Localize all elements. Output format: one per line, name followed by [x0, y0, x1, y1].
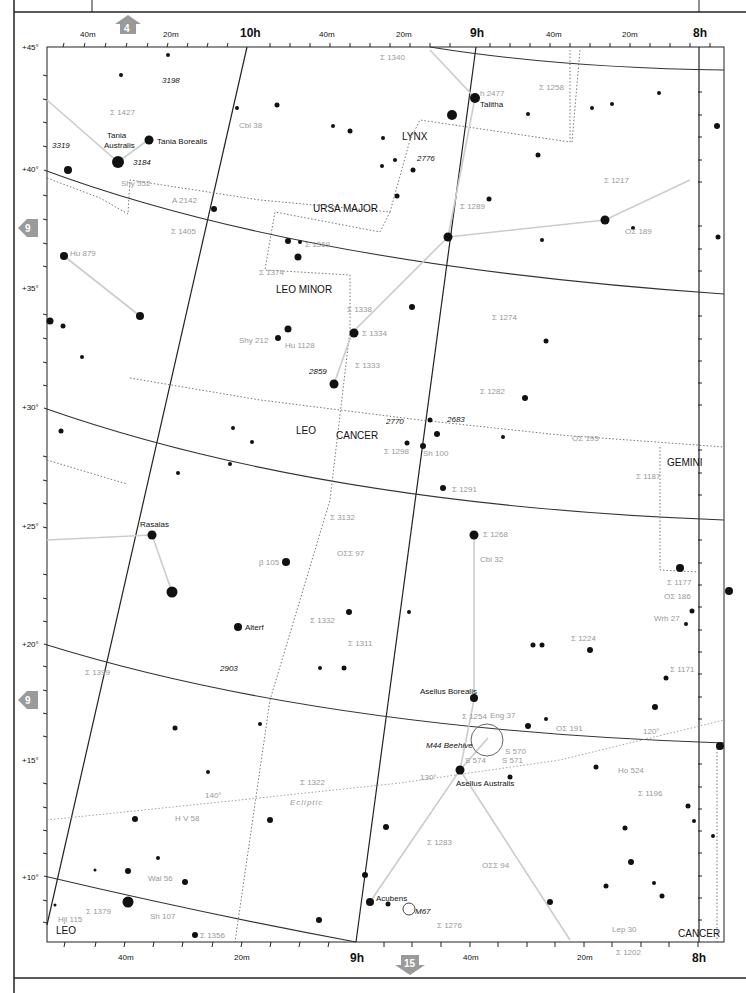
ra-bottom-40m: 40m	[118, 953, 134, 962]
svg-text:OΣΣ 97: OΣΣ 97	[337, 549, 365, 558]
nav-arrow-up[interactable]: 4	[115, 15, 141, 34]
svg-text:Σ 1289: Σ 1289	[460, 202, 486, 211]
label-tania-borealis: Tania Borealis	[157, 137, 207, 146]
dec-arc-40-35	[44, 170, 724, 294]
ra-top-9h: 9h	[470, 26, 484, 40]
svg-text:Σ 1399: Σ 1399	[85, 668, 111, 677]
svg-text:OΣ 189: OΣ 189	[625, 227, 652, 236]
label-ngc-2859: 2859	[308, 367, 327, 376]
ra-top-40m-c: 40m	[546, 30, 562, 39]
dec-label-30: +30°	[22, 403, 39, 412]
svg-text:Sh 107: Sh 107	[150, 912, 176, 921]
svg-text:Σ 1311: Σ 1311	[348, 639, 373, 648]
bottom-ticks	[64, 942, 698, 947]
svg-text:Σ 1177: Σ 1177	[667, 578, 692, 587]
label-talitha: Talitha	[480, 100, 504, 109]
svg-text:Σ 1340: Σ 1340	[380, 53, 406, 62]
svg-text:Σ 1405: Σ 1405	[171, 227, 197, 236]
svg-text:β 105: β 105	[259, 558, 280, 567]
ecliptic-mark-120: 120°	[643, 727, 660, 736]
label-tania-australis-2: Australis	[104, 141, 135, 150]
dec-label-10: +10°	[22, 873, 39, 882]
svg-text:9: 9	[25, 223, 31, 234]
constellation-cancer: CANCER	[336, 430, 378, 441]
svg-text:Cbl 38: Cbl 38	[239, 121, 263, 130]
ra-top-20m: 20m	[163, 30, 179, 39]
svg-text:OΣ 186: OΣ 186	[664, 592, 691, 601]
label-ngc-2770: 2770	[385, 417, 404, 426]
svg-text:Σ 1356: Σ 1356	[200, 931, 226, 940]
dec-label-45: +45°	[22, 43, 39, 52]
svg-text:Σ 1187: Σ 1187	[636, 472, 661, 481]
svg-text:Σ 1334: Σ 1334	[362, 329, 388, 338]
label-asellus-australis: Asellus Australis	[456, 779, 514, 788]
svg-text:Σ 1196: Σ 1196	[638, 789, 663, 798]
constellation-lynx: LYNX	[402, 131, 428, 142]
svg-text:Σ 1333: Σ 1333	[355, 361, 381, 370]
svg-text:Σ 1254: Σ 1254	[462, 712, 488, 721]
ra-bottom-9h: 9h	[350, 951, 364, 965]
svg-text:Σ 1282: Σ 1282	[480, 387, 506, 396]
svg-text:Σ 1202: Σ 1202	[616, 948, 642, 957]
ra-top-10h: 10h	[240, 26, 261, 40]
svg-text:Σ 1274: Σ 1274	[492, 313, 518, 322]
dec-arc-30-25	[44, 408, 724, 520]
svg-text:Σ 1338: Σ 1338	[347, 305, 373, 314]
svg-text:Σ 1217: Σ 1217	[604, 176, 630, 185]
svg-text:Hjl 115: Hjl 115	[58, 915, 83, 924]
ecliptic-label: Ecliptic	[290, 798, 323, 807]
svg-text:Eng 37: Eng 37	[490, 711, 516, 720]
svg-text:OΣΣ 94: OΣΣ 94	[482, 861, 510, 870]
svg-text:Σ 1322: Σ 1322	[300, 778, 326, 787]
svg-text:h 2477: h 2477	[480, 89, 505, 98]
svg-text:Σ 1298: Σ 1298	[384, 447, 410, 456]
svg-text:15: 15	[404, 958, 416, 969]
label-rasalas: Rasalas	[140, 520, 169, 529]
label-acubens: Acubens	[376, 894, 407, 903]
svg-text:OΣ 193: OΣ 193	[572, 434, 599, 443]
svg-text:Σ 3132: Σ 3132	[330, 513, 356, 522]
ra-top-40m-b: 40m	[319, 30, 335, 39]
svg-text:Lep 30: Lep 30	[612, 925, 637, 934]
label-ngc-3184: 3184	[133, 158, 151, 167]
nav-arrow-down[interactable]: 15	[395, 955, 425, 975]
ra-bottom-20m-b: 20m	[577, 953, 593, 962]
label-ngc-2683: 2683	[446, 415, 465, 424]
svg-text:Wrh 27: Wrh 27	[654, 614, 680, 623]
dec-label-15: +15°	[22, 756, 39, 765]
svg-text:Shy 212: Shy 212	[239, 336, 269, 345]
ra-top-8h: 8h	[693, 26, 707, 40]
m67-cluster	[403, 903, 415, 915]
label-asellus-borealis: Asellus Borealis	[420, 687, 477, 696]
nav-arrow-left-top[interactable]: 9	[18, 219, 38, 237]
nav-arrow-left-bottom[interactable]: 9	[18, 691, 38, 709]
svg-text:Hu 1128: Hu 1128	[285, 341, 315, 350]
svg-text:Cbl 32: Cbl 32	[480, 555, 504, 564]
constellation-cancer-bottom: CANCER	[678, 928, 720, 939]
svg-text:Ho 524: Ho 524	[618, 766, 644, 775]
label-m44-beehive: M44 Beehive	[426, 741, 473, 750]
svg-text:Σ 1171: Σ 1171	[670, 665, 695, 674]
ra-top-20m-b: 20m	[396, 30, 412, 39]
dec-label-35: +35°	[22, 284, 39, 293]
svg-text:9: 9	[25, 695, 31, 706]
constellation-leo-minor: LEO MINOR	[276, 284, 332, 295]
svg-text:H V 58: H V 58	[175, 814, 200, 823]
svg-text:Σ 1427: Σ 1427	[110, 108, 136, 117]
svg-text:Σ 1374: Σ 1374	[259, 268, 285, 277]
double-star-labels: Σ 1340 Σ 1427 Cbl 38 h 2477 Σ 1258 Shy 5…	[58, 53, 695, 957]
dec-label-40: +40°	[22, 165, 39, 174]
svg-text:S 570: S 570	[505, 747, 526, 756]
label-ngc-2776: 2776	[416, 154, 435, 163]
svg-text:S 574: S 574	[465, 756, 486, 765]
ra-bottom-20m: 20m	[234, 953, 250, 962]
constellation-ursa-major: URSA MAJOR	[313, 203, 378, 214]
constellation-leo: LEO	[296, 425, 316, 436]
constellation-gemini: GEMINI	[667, 457, 703, 468]
ra-bottom-40m-b: 40m	[463, 953, 479, 962]
constellation-leo-bottom: LEO	[56, 925, 76, 936]
star-chart: +45° +40° +35° +30° +25° +20° +15° +10° …	[0, 0, 746, 993]
svg-text:Sh 100: Sh 100	[423, 449, 449, 458]
dec-arc-20-15	[44, 644, 724, 743]
svg-text:Shy 552: Shy 552	[121, 179, 151, 188]
